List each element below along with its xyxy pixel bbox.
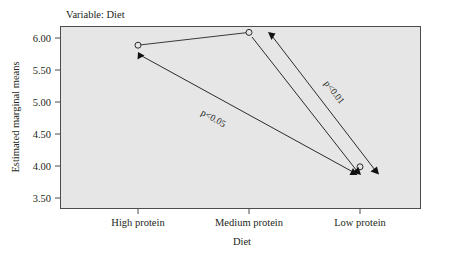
y-tick-label-450: 4.50 — [33, 129, 51, 140]
y-tick-label-550: 5.50 — [33, 65, 51, 76]
x-axis-title: Diet — [233, 236, 251, 247]
y-axis-title: Estimated marginal means — [10, 61, 21, 172]
x-tick-label-medium-protein: Medium protein — [215, 217, 284, 228]
x-tick-label-low-protein: Low protein — [334, 217, 386, 228]
data-point-high-protein — [135, 42, 141, 48]
y-tick-label-400: 4.00 — [33, 161, 51, 172]
chart-figure: Variable: Diet 6.00 5.50 5.00 4.50 4.00 … — [0, 0, 451, 253]
y-axis-ticks — [55, 38, 61, 198]
profile-plot: Variable: Diet 6.00 5.50 5.00 4.50 4.00 … — [0, 0, 451, 253]
panel-title: Variable: Diet — [66, 9, 125, 20]
y-tick-label-350: 3.50 — [33, 193, 51, 204]
x-tick-label-high-protein: High protein — [111, 217, 165, 228]
plot-panel-background — [61, 27, 421, 209]
x-axis-ticks — [138, 209, 360, 215]
data-point-medium-protein — [246, 29, 252, 35]
y-tick-label-600: 6.00 — [33, 33, 51, 44]
y-tick-label-500: 5.00 — [33, 97, 51, 108]
